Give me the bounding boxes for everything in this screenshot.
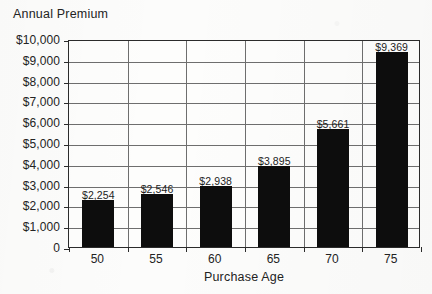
y-axis-tick	[64, 187, 69, 188]
x-axis-tick	[421, 247, 422, 252]
x-axis-tick	[69, 247, 70, 252]
y-axis-label: 0	[53, 241, 60, 255]
gridline-vertical	[186, 41, 187, 247]
bar-value-label: $2,938	[199, 175, 232, 187]
bar-chart-figure: Annual Premium $2,254$2,546$2,938$3,895$…	[0, 0, 432, 294]
bar-value-label: $2,254	[82, 189, 115, 201]
y-axis-tick	[64, 124, 69, 125]
y-axis-tick	[64, 103, 69, 104]
bar-value-label: $9,369	[375, 41, 408, 53]
gridline-horizontal	[69, 228, 419, 229]
y-axis-tick	[64, 166, 69, 167]
gridline-horizontal	[69, 62, 419, 63]
gridline-horizontal	[69, 207, 419, 208]
x-axis-tick	[186, 247, 187, 252]
x-axis-tick	[304, 247, 305, 252]
gridline-horizontal	[69, 103, 419, 104]
y-axis-label: $2,000	[23, 199, 60, 213]
bar[interactable]	[376, 52, 408, 247]
gridline-horizontal	[69, 83, 419, 84]
y-axis-label: $10,000	[16, 33, 60, 47]
x-axis-label: 65	[267, 252, 280, 266]
chart-title: Annual Premium	[13, 7, 108, 21]
y-axis-label: $8,000	[23, 75, 60, 89]
x-axis-label: 60	[208, 252, 221, 266]
x-axis-label: 70	[325, 252, 338, 266]
y-axis-label: $5,000	[23, 137, 60, 151]
y-axis-tick	[64, 62, 69, 63]
gridline-horizontal	[69, 124, 419, 125]
gridline-vertical	[362, 41, 363, 247]
x-axis-tick	[245, 247, 246, 252]
y-axis-label: $3,000	[23, 179, 60, 193]
y-axis-tick	[64, 41, 69, 42]
y-axis-label: $6,000	[23, 116, 60, 130]
bar[interactable]	[258, 166, 290, 247]
gridline-horizontal	[69, 145, 419, 146]
x-axis-title: Purchase Age	[68, 270, 420, 284]
x-axis-label: 50	[91, 252, 104, 266]
bar[interactable]	[317, 129, 349, 247]
y-axis-label: $1,000	[23, 220, 60, 234]
y-axis-label: $7,000	[23, 95, 60, 109]
gridline-horizontal	[69, 187, 419, 188]
bar[interactable]	[200, 186, 232, 247]
bar-value-label: $3,895	[258, 155, 291, 167]
x-axis-tick	[362, 247, 363, 252]
x-axis-tick	[128, 247, 129, 252]
y-axis-tick	[64, 83, 69, 84]
y-axis-label: $9,000	[23, 54, 60, 68]
x-axis-label: 75	[384, 252, 397, 266]
y-axis-tick	[64, 207, 69, 208]
bar[interactable]	[141, 194, 173, 247]
bar-value-label: $5,661	[317, 118, 350, 130]
plot-area: $2,254$2,546$2,938$3,895$5,661$9,369	[68, 40, 420, 248]
gridline-horizontal	[69, 166, 419, 167]
y-axis-tick	[64, 145, 69, 146]
gridline-vertical	[304, 41, 305, 247]
gridline-vertical	[245, 41, 246, 247]
bar[interactable]	[82, 200, 114, 247]
x-axis-label: 55	[149, 252, 162, 266]
y-axis-tick	[64, 228, 69, 229]
bar-value-label: $2,546	[141, 183, 174, 195]
y-axis-label: $4,000	[23, 158, 60, 172]
gridline-vertical	[128, 41, 129, 247]
